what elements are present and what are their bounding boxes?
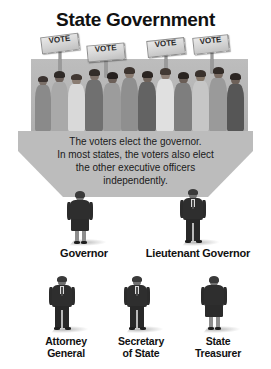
label-state-treasurer: State Treasurer — [168, 336, 268, 359]
figure-hair — [188, 189, 198, 195]
figure-leg-split — [136, 310, 138, 328]
label-governor: Governor — [30, 247, 138, 259]
figure-leg-split — [192, 223, 194, 241]
figure-tie — [61, 287, 63, 296]
figure-shoe-left — [208, 327, 214, 330]
figure-secretary-of-state — [119, 277, 163, 333]
crowd-figure — [227, 75, 244, 131]
figure-hair — [57, 276, 67, 282]
crowd-figure — [121, 69, 138, 131]
crowd-figure — [156, 70, 174, 131]
arrow-text-line-2: In most states, the voters also elect — [0, 148, 271, 161]
figure-shoe-right — [81, 241, 87, 244]
label-lieutenant-governor: Lieutenant Governor — [130, 247, 266, 259]
figure-torso — [204, 285, 224, 306]
figure-shoe-right — [196, 240, 202, 243]
figure-shoe-left — [74, 241, 80, 244]
figure-governor — [62, 192, 106, 246]
label-governor-line1: Governor — [60, 247, 108, 259]
vote-sign-label: VOTE — [147, 38, 184, 50]
crowd-figure — [192, 72, 209, 131]
vote-sign: VOTE — [86, 42, 125, 62]
crowd-figure — [103, 74, 121, 131]
figure-hair — [75, 191, 85, 198]
figure-shoe-right — [215, 327, 221, 330]
figure-tie — [192, 200, 194, 209]
figure-hair — [132, 276, 142, 282]
figure-tie — [136, 287, 138, 296]
vote-sign-label: VOTE — [87, 43, 124, 54]
figure-shoe-left — [129, 327, 135, 330]
label-lieutenant-governor-line1: Lieutenant Governor — [146, 247, 250, 259]
figure-shoe-right — [65, 327, 71, 330]
arrow-text-block: The voters elect the governor. In most s… — [0, 131, 271, 187]
label-state-treasurer-line1: State — [168, 336, 268, 348]
state-government-diagram: State Government VOTE VOTE VOTE VOTE — [0, 0, 271, 369]
voters-elect-arrow: The voters elect the governor. In most s… — [0, 131, 271, 197]
vote-sign: VOTE — [192, 34, 230, 55]
vote-sign: VOTE — [40, 33, 80, 55]
figure-shoe-left — [185, 240, 191, 243]
figure-hair — [209, 276, 219, 283]
crowd-figure — [68, 76, 85, 131]
figure-shoe-right — [140, 327, 146, 330]
figure-shoe-left — [54, 327, 60, 330]
crowd-figure — [35, 77, 51, 131]
arrow-text-line-4: independently. — [0, 174, 271, 187]
vote-sign: VOTE — [146, 37, 186, 58]
crowd-contents: VOTE VOTE VOTE VOTE — [31, 25, 248, 131]
crowd-figure — [209, 69, 227, 131]
vote-sign-label: VOTE — [193, 35, 228, 47]
figure-lieutenant-governor — [175, 190, 219, 246]
figure-state-treasurer — [196, 277, 240, 333]
voters-crowd-photo: VOTE VOTE VOTE VOTE — [31, 59, 248, 131]
vote-sign-label: VOTE — [41, 34, 78, 46]
crowd-figure — [174, 74, 192, 131]
crowd-figure — [138, 73, 156, 131]
figure-attorney-general — [44, 277, 88, 333]
figure-torso — [70, 200, 90, 220]
figure-leg-split — [61, 310, 63, 328]
crowd-figure — [85, 71, 103, 131]
arrow-text-line-3: the other executive officers — [0, 161, 271, 174]
figure-skirt — [71, 219, 89, 231]
arrow-text-line-1: The voters elect the governor. — [0, 135, 271, 148]
figure-skirt — [205, 305, 223, 317]
crowd-figure — [51, 73, 68, 131]
label-state-treasurer-line2: Treasurer — [168, 348, 268, 360]
